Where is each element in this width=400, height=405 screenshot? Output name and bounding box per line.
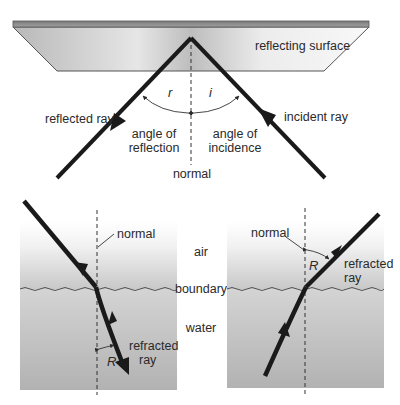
normal-label: normal <box>117 227 155 241</box>
angle-R-symbol: R <box>107 354 116 369</box>
incident-ray-label: incident ray <box>284 110 349 124</box>
refraction-left-diagram: normal R refracted ray <box>20 201 178 395</box>
refraction-right-diagram: normal R refracted ray <box>227 208 393 394</box>
water-region <box>227 289 384 388</box>
angle-r-arc <box>143 96 188 113</box>
angle-i-symbol: i <box>209 85 213 100</box>
angle-R-symbol: R <box>309 258 318 273</box>
angle-r-symbol: r <box>168 85 173 100</box>
air-label: air <box>194 245 208 259</box>
angle-of-incidence-line1: angle of <box>213 127 258 141</box>
light-reflection-refraction-diagram: reflecting surface reflected ray inciden… <box>0 0 400 405</box>
normal-label: normal <box>251 226 289 240</box>
normal-label: normal <box>173 167 211 181</box>
refracted-label-line2: ray <box>139 353 157 367</box>
refracted-label-line1: refracted <box>344 257 393 271</box>
refracted-label-line2: ray <box>344 271 362 285</box>
reflection-diagram: reflecting surface reflected ray inciden… <box>13 21 369 181</box>
media-labels: air boundary water <box>175 245 228 335</box>
angle-of-reflection-line2: reflection <box>129 141 180 155</box>
surface-label: reflecting surface <box>255 39 350 53</box>
water-label: water <box>185 321 217 335</box>
angle-i-arc <box>194 96 239 113</box>
refracted-label-line1: refracted <box>129 339 178 353</box>
boundary-label: boundary <box>175 282 228 296</box>
angle-of-incidence-line2: incidence <box>209 141 262 155</box>
reflected-ray-label: reflected ray <box>45 112 115 126</box>
angle-of-reflection-line1: angle of <box>132 127 177 141</box>
